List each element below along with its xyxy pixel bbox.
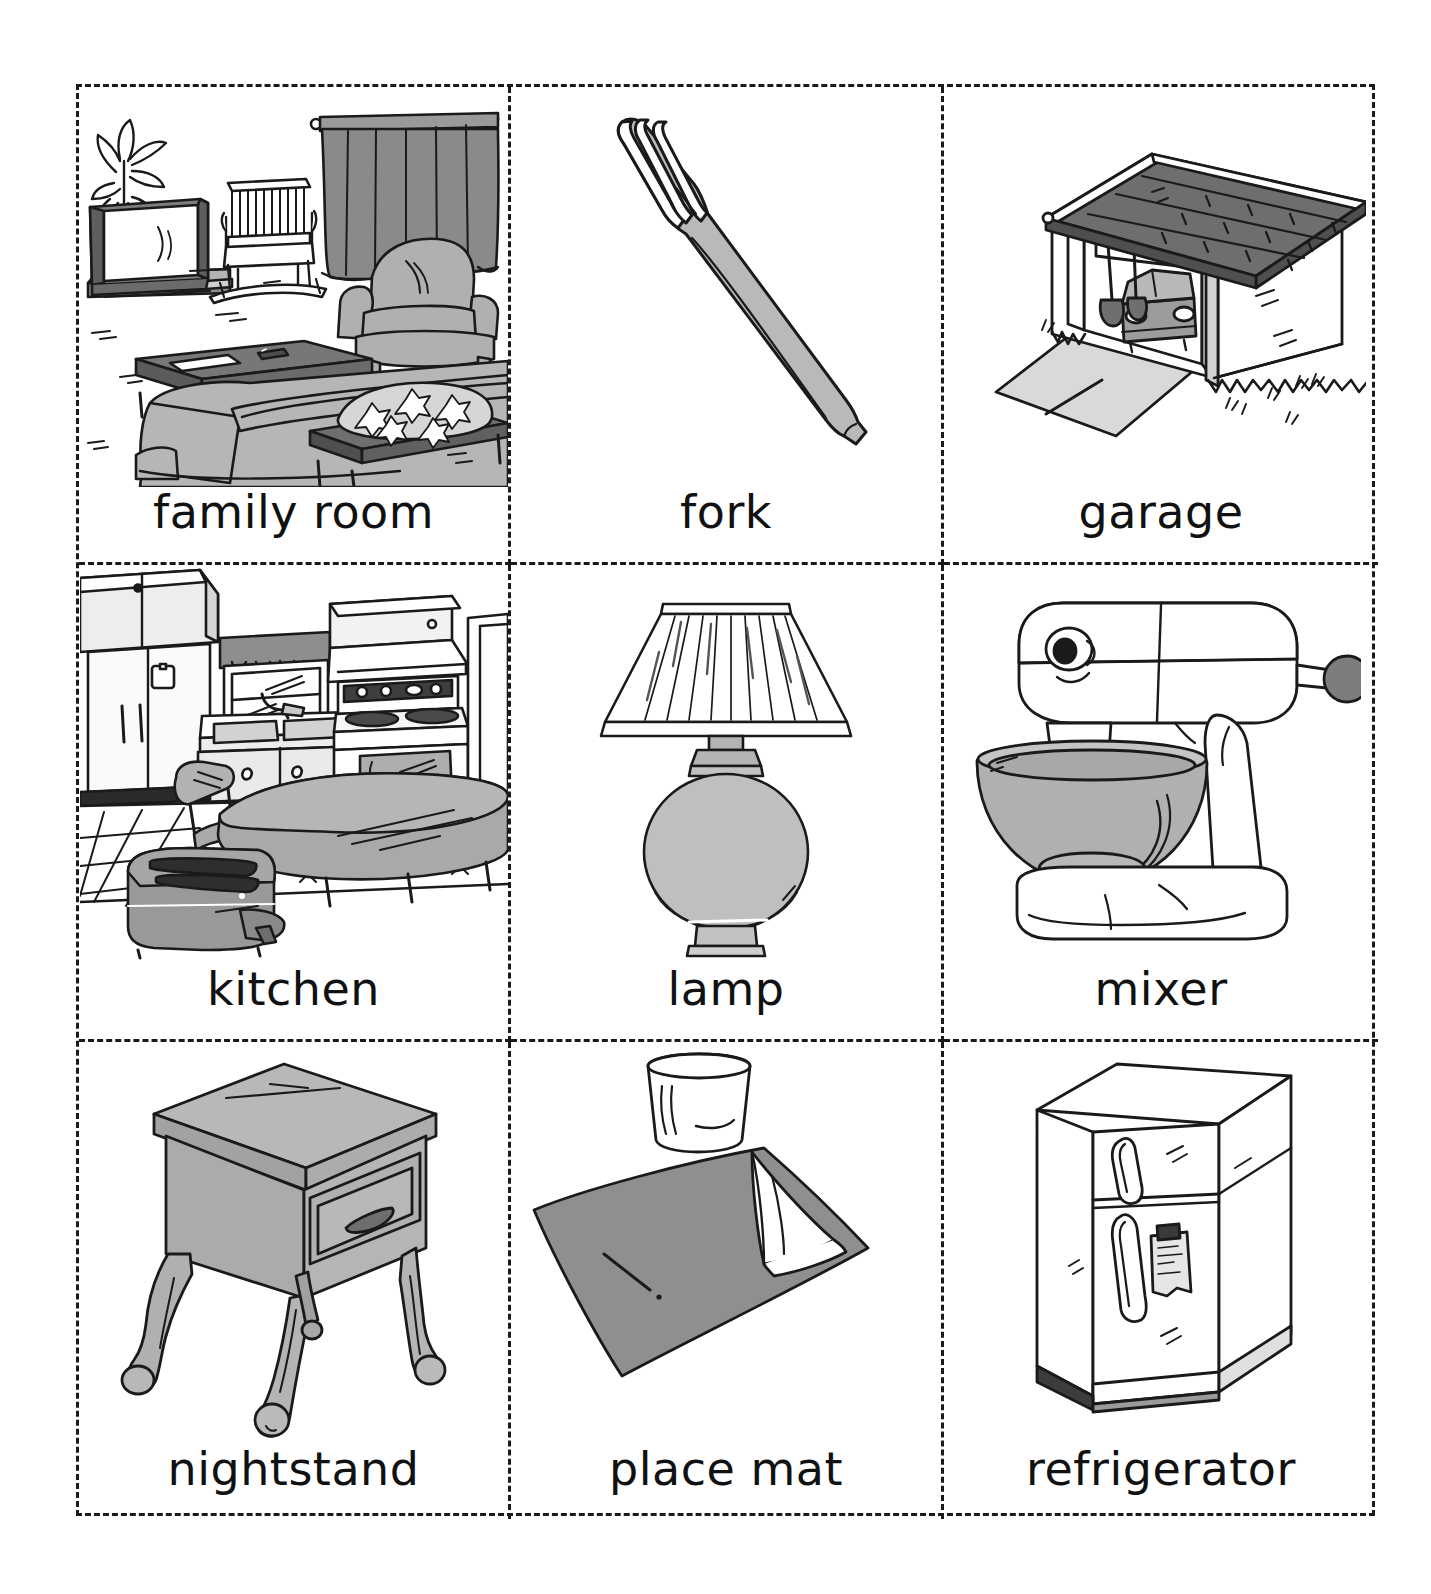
flashcard-label-garage: garage: [944, 488, 1378, 562]
nightstand-artwork: [79, 1042, 508, 1445]
lamp-artwork: [511, 565, 941, 965]
place-mat-icon: [526, 1048, 926, 1438]
lamp-icon: [551, 570, 901, 960]
place-mat-artwork: [511, 1042, 941, 1445]
flashcard-place-mat[interactable]: place mat: [511, 1042, 944, 1519]
nightstand-icon: [94, 1048, 494, 1438]
flashcard-refrigerator[interactable]: refrigerator: [944, 1042, 1378, 1519]
kitchen-artwork: [79, 565, 508, 965]
garage-artwork: [944, 87, 1378, 488]
flashcard-label-lamp: lamp: [511, 965, 941, 1039]
flashcard-label-kitchen: kitchen: [79, 965, 508, 1039]
family-room-artwork: [79, 87, 508, 488]
flashcard-label-nightstand: nightstand: [79, 1445, 508, 1519]
flashcard-nightstand[interactable]: nightstand: [79, 1042, 511, 1519]
refrigerator-artwork: [944, 1042, 1378, 1445]
flashcard-label-family-room: family room: [79, 488, 508, 562]
flashcard-kitchen[interactable]: kitchen: [79, 565, 511, 1042]
mixer-artwork: [944, 565, 1378, 965]
flashcard-label-mixer: mixer: [944, 965, 1378, 1039]
stand-mixer-icon: [961, 567, 1361, 962]
flashcard-label-place-mat: place mat: [511, 1445, 941, 1519]
flashcard-sheet: family room fork: [76, 84, 1375, 1516]
flashcard-lamp[interactable]: lamp: [511, 565, 944, 1042]
fork-artwork: [511, 87, 941, 488]
flashcard-mixer[interactable]: mixer: [944, 565, 1378, 1042]
fork-icon: [526, 92, 926, 482]
flashcard-garage[interactable]: garage: [944, 87, 1378, 565]
garage-icon: [956, 92, 1366, 482]
flashcard-family-room[interactable]: family room: [79, 87, 511, 565]
family-room-scene-icon: [80, 87, 508, 487]
flashcard-label-fork: fork: [511, 488, 941, 562]
refrigerator-icon: [961, 1048, 1361, 1438]
flashcard-fork[interactable]: fork: [511, 87, 944, 565]
kitchen-scene-icon: [80, 566, 508, 964]
flashcard-label-refrigerator: refrigerator: [944, 1445, 1378, 1519]
